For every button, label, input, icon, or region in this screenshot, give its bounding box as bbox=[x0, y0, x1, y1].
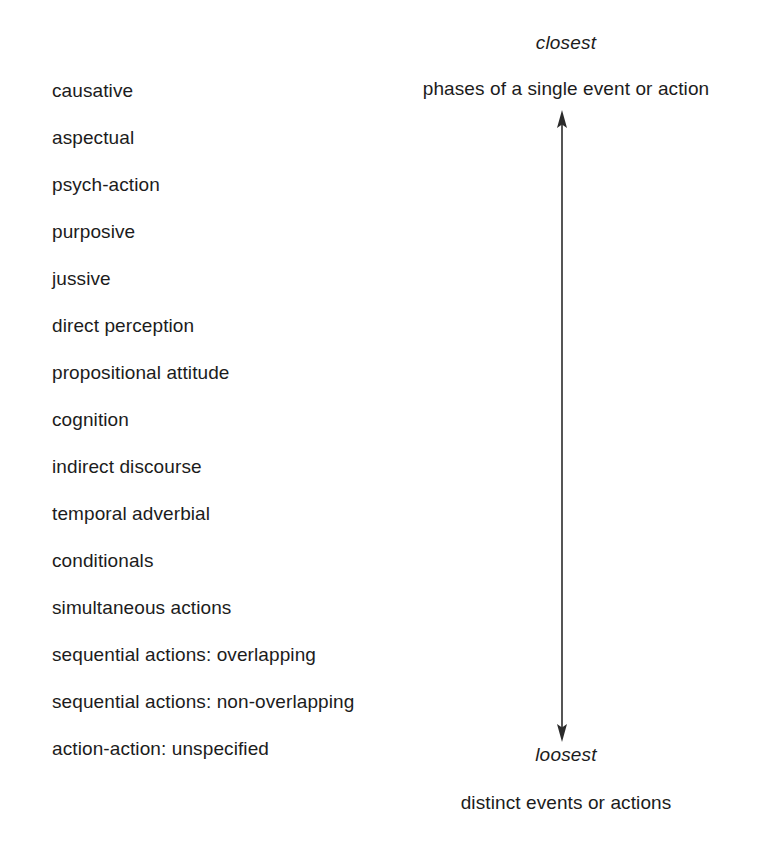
list-item: temporal adverbial bbox=[52, 503, 452, 550]
list-item: simultaneous actions bbox=[52, 597, 452, 644]
list-item: conditionals bbox=[52, 550, 452, 597]
list-item: jussive bbox=[52, 268, 452, 315]
list-item: sequential actions: overlapping bbox=[52, 644, 452, 691]
list-item: indirect discourse bbox=[52, 456, 452, 503]
list-item: aspectual bbox=[52, 127, 452, 174]
list-item: direct perception bbox=[52, 315, 452, 362]
scale-arrow bbox=[536, 110, 588, 742]
list-item: psych-action bbox=[52, 174, 452, 221]
list-item: cognition bbox=[52, 409, 452, 456]
list-item: purposive bbox=[52, 221, 452, 268]
list-item: action-action: unspecified bbox=[52, 738, 452, 785]
scale-bottom-pole-gloss: distinct events or actions bbox=[376, 792, 756, 814]
list-item: sequential actions: non-overlapping bbox=[52, 691, 452, 738]
list-item: causative bbox=[52, 80, 452, 127]
list-item: propositional attitude bbox=[52, 362, 452, 409]
interclausal-relations-hierarchy-figure: closest phases of a single event or acti… bbox=[0, 0, 775, 847]
clause-linkage-type-list: causative aspectual psych-action purposi… bbox=[52, 80, 452, 785]
scale-top-pole-label: closest bbox=[376, 32, 756, 54]
